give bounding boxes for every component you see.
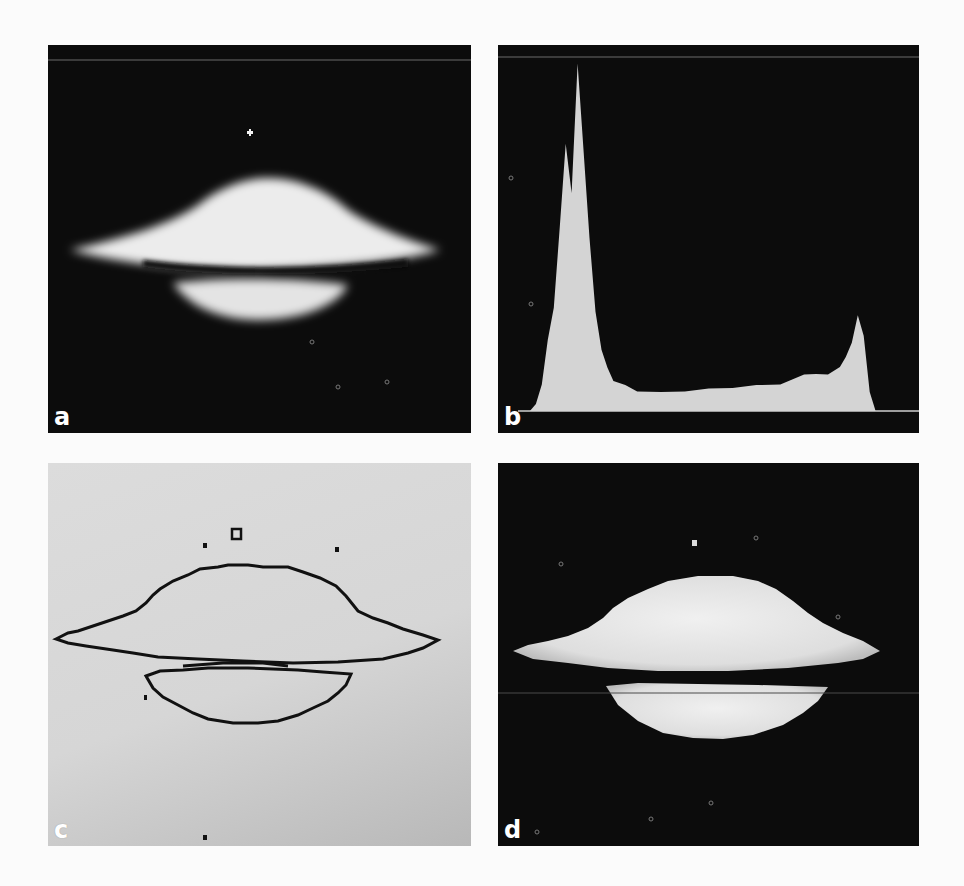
histogram-bars — [518, 64, 898, 412]
galaxy-image — [48, 45, 471, 433]
panel-label-a: a — [54, 405, 70, 429]
panel-c-contour-map: c — [48, 463, 471, 846]
panel-a-galaxy-image: a — [48, 45, 471, 433]
contour-outline — [48, 463, 471, 846]
panel-label-d: d — [504, 818, 521, 842]
panel-label-b: b — [504, 405, 521, 429]
panel-d-segmented-image: d — [498, 463, 919, 846]
panel-b-histogram: b — [498, 45, 919, 433]
histogram-chart — [498, 45, 919, 433]
panel-label-c: c — [54, 818, 68, 842]
segmented-galaxy — [498, 463, 919, 846]
